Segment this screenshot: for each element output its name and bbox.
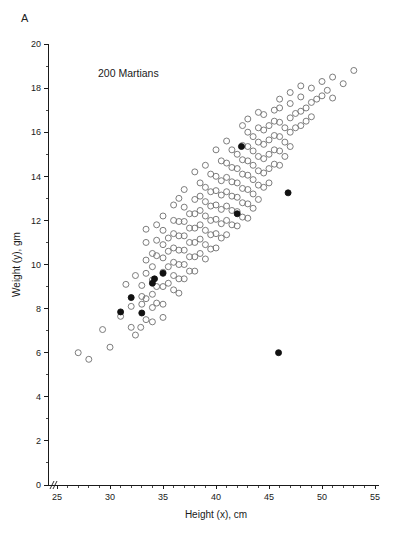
data-point-filled (139, 310, 145, 316)
x-tick-label: 55 (370, 492, 380, 502)
data-point-open (351, 67, 357, 73)
data-point-open (197, 193, 203, 199)
data-point-filled (276, 350, 282, 356)
data-point-open (143, 317, 149, 323)
y-tick-label: 20 (31, 39, 41, 49)
data-point-open (266, 180, 272, 186)
data-point-open (165, 280, 171, 286)
data-point-open (330, 74, 336, 80)
data-point-open (250, 148, 256, 154)
data-point-open (250, 134, 256, 140)
y-axis-title: Weight (y), gm (11, 232, 22, 297)
data-point-filled (128, 295, 134, 301)
data-point-open (208, 171, 214, 177)
data-point-open (261, 112, 267, 118)
data-point-open (143, 270, 149, 276)
y-tick-label: 6 (36, 348, 41, 358)
data-point-open (75, 350, 81, 356)
data-point-open (250, 177, 256, 183)
data-point-open (132, 273, 138, 279)
data-point-open (202, 162, 208, 168)
data-point-open (160, 255, 166, 261)
data-point-open (149, 264, 155, 270)
data-point-open (160, 242, 166, 248)
data-point-open (330, 95, 336, 101)
x-tick-label: 50 (317, 492, 327, 502)
data-point-open (245, 129, 251, 135)
data-point-open (86, 356, 92, 362)
scatter-plot-figure: A 200 Martians 0246810121416182025303540… (0, 0, 404, 541)
data-point-open (287, 129, 293, 135)
data-point-filled (238, 144, 244, 150)
data-point-open (154, 300, 160, 306)
data-point-open (202, 242, 208, 248)
data-point-open (271, 107, 277, 113)
data-point-open (160, 301, 166, 307)
data-point-open (224, 217, 230, 223)
data-point-open (287, 144, 293, 150)
data-point-filled (285, 190, 291, 196)
data-point-open (128, 303, 134, 309)
data-point-open (298, 94, 304, 100)
data-point-open (139, 301, 145, 307)
data-point-filled (118, 309, 124, 315)
axes-group (44, 44, 379, 489)
data-point-open (165, 235, 171, 241)
data-point-open (298, 83, 304, 89)
data-point-open (282, 139, 288, 145)
data-point-open (255, 196, 261, 202)
data-point-open (224, 232, 230, 238)
data-point-open (181, 204, 187, 210)
data-point-open (132, 332, 138, 338)
plot-canvas: 0246810121416182025303540455055Height (x… (0, 0, 404, 541)
data-point-open (171, 202, 177, 208)
data-point-open (224, 189, 230, 195)
data-point-open (250, 191, 256, 197)
data-point-open (202, 256, 208, 262)
data-point-open (139, 282, 145, 288)
data-point-open (287, 101, 293, 107)
axis-labels-group: 0246810121416182025303540455055Height (x… (11, 39, 380, 520)
data-point-filled (234, 211, 240, 217)
data-point-open (261, 170, 267, 176)
data-point-open (282, 153, 288, 159)
x-tick-label: 35 (158, 492, 168, 502)
y-tick-label: 10 (31, 260, 41, 270)
data-point-open (154, 222, 160, 228)
data-point-open (202, 199, 208, 205)
x-tick-label: 45 (264, 492, 274, 502)
data-point-open (234, 151, 240, 157)
data-point-open (160, 213, 166, 219)
data-point-open (261, 141, 267, 147)
y-tick-label: 2 (36, 436, 41, 446)
data-point-open (319, 78, 325, 84)
data-point-filled (160, 270, 166, 276)
data-point-open (100, 327, 106, 333)
data-point-open (213, 147, 219, 153)
data-point-open (324, 87, 330, 93)
data-point-open (266, 151, 272, 157)
data-point-open (287, 90, 293, 96)
data-point-open (282, 125, 288, 131)
data-point-open (149, 291, 155, 297)
data-point-open (224, 138, 230, 144)
y-tick-label: 4 (36, 392, 41, 402)
data-point-open (266, 123, 272, 129)
data-points-group (75, 67, 357, 362)
data-point-open (340, 81, 346, 87)
data-point-open (176, 290, 182, 296)
data-point-open (303, 105, 309, 111)
x-tick-label: 40 (211, 492, 221, 502)
data-point-open (202, 227, 208, 233)
data-point-open (261, 127, 267, 133)
data-point-open (319, 93, 325, 99)
data-point-open (160, 227, 166, 233)
data-point-open (165, 264, 171, 270)
data-point-open (143, 257, 149, 263)
data-point-open (149, 319, 155, 325)
data-point-open (143, 226, 149, 232)
x-tick-label: 25 (52, 492, 62, 502)
x-axis-title: Height (x), cm (185, 509, 247, 520)
data-point-open (202, 213, 208, 219)
data-point-open (308, 114, 314, 120)
